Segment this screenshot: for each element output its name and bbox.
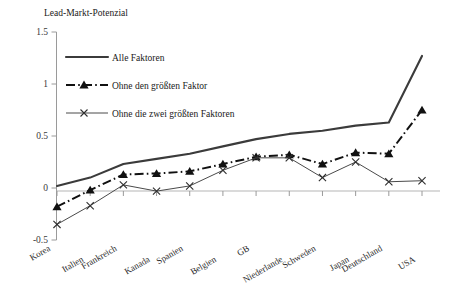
data-point-marker xyxy=(219,167,226,174)
x-tick-label-kanada: Kanada xyxy=(123,254,152,276)
y-tick-label: 1 xyxy=(43,79,48,89)
chart-legend: Alle Faktoren Ohne den größten Faktor Oh… xyxy=(66,53,235,119)
data-point-marker xyxy=(119,170,128,178)
series-layer xyxy=(52,56,426,228)
data-point-marker xyxy=(319,174,326,181)
x-tick-label-korea: Korea xyxy=(28,243,52,263)
x-tick-label-gb: GB xyxy=(235,243,251,258)
x-tick-label-niederlande: Niederlande xyxy=(241,254,284,285)
x-tick-label-frankreich: Frankreich xyxy=(80,243,119,271)
series-line xyxy=(57,56,422,186)
data-point-marker xyxy=(52,202,61,210)
y-tick-label: 0.5 xyxy=(36,131,48,141)
data-point-marker xyxy=(352,158,359,165)
y-tick-label: 0 xyxy=(43,183,48,193)
x-tick-label-usa: USA xyxy=(396,254,417,272)
x-tick-labels: KoreaItalienFrankreichKanadaSpanienBelgi… xyxy=(28,243,417,285)
series-alle-faktoren xyxy=(57,56,422,186)
data-point-marker xyxy=(86,186,95,194)
y-tick-labels: 1.510.50-0.5 xyxy=(33,27,48,245)
page-title: Lead-Markt-Potenzial xyxy=(44,8,128,18)
legend-label-ohne-die-zwei-groessten-faktoren: Ohne die zwei größten Faktoren xyxy=(112,109,235,119)
x-tick-label-belgien: Belgien xyxy=(189,254,219,277)
data-point-marker xyxy=(87,202,94,209)
line-chart: Lead-Markt-Potenzial 1.510.50-0.5 KoreaI… xyxy=(0,0,454,303)
legend-label-alle-faktoren: Alle Faktoren xyxy=(112,53,165,63)
data-point-marker xyxy=(417,106,426,114)
x-tick-label-spanien: Spanien xyxy=(155,243,186,266)
x-tick-label-schweden: Schweden xyxy=(280,243,317,270)
chart-container: Lead-Markt-Potenzial 1.510.50-0.5 KoreaI… xyxy=(0,0,454,303)
y-tick-label: 1.5 xyxy=(36,27,48,37)
legend-label-ohne-den-groessten-faktor: Ohne den größten Faktor xyxy=(112,81,208,91)
